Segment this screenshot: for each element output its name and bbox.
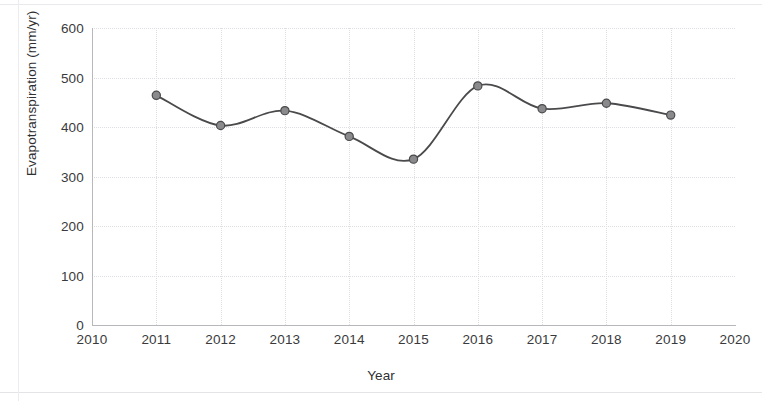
data-point: [217, 121, 225, 129]
series-line: [156, 84, 670, 161]
data-series: [92, 28, 735, 325]
series-markers: [152, 82, 675, 163]
x-tick-label: 2020: [720, 332, 751, 347]
x-tick-label: 2019: [655, 332, 686, 347]
x-tick-label: 2018: [591, 332, 622, 347]
x-tick-label: 2014: [334, 332, 365, 347]
data-point: [667, 111, 675, 119]
x-axis-label: Year: [0, 368, 762, 383]
data-point: [409, 155, 417, 163]
page-edge-left: [18, 0, 19, 401]
data-point: [281, 107, 289, 115]
y-tick-label: 200: [61, 219, 84, 234]
y-axis-label: Evapotranspiration (mm/yr): [24, 11, 39, 176]
x-tick-label: 2011: [141, 332, 171, 347]
page-edge-bottom: [0, 392, 762, 393]
data-point: [602, 99, 610, 107]
data-point: [152, 91, 160, 99]
y-tick-label: 600: [61, 21, 84, 36]
x-tick-label: 2015: [398, 332, 429, 347]
page-edge-top: [0, 4, 762, 5]
y-tick-label: 300: [61, 169, 84, 184]
data-point: [538, 105, 546, 113]
y-tick-label: 500: [61, 70, 84, 85]
y-tick-label: 100: [61, 268, 84, 283]
chart-figure: Evapotranspiration (mm/yr) Year 01002003…: [0, 0, 762, 401]
y-tick-label: 400: [61, 120, 84, 135]
x-tick-label: 2013: [269, 332, 300, 347]
y-tick-label: 0: [76, 318, 84, 333]
x-tick-label: 2016: [462, 332, 493, 347]
data-point: [474, 82, 482, 90]
x-tick-label: 2010: [77, 332, 108, 347]
x-axis-line: [92, 325, 736, 326]
x-tick-label: 2017: [527, 332, 558, 347]
plot-area: 0100200300400500600 20102011201220132014…: [92, 28, 735, 325]
x-tick-label: 2012: [205, 332, 236, 347]
data-point: [345, 132, 353, 140]
